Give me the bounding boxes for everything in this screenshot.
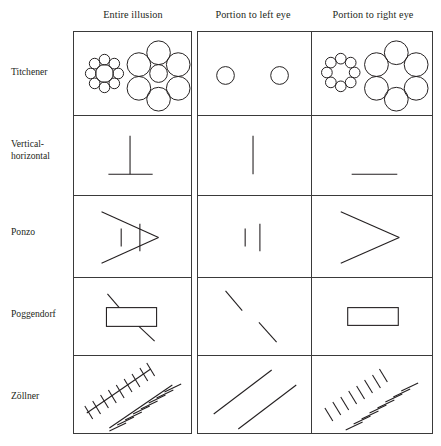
column-header-portion-to-left-eye: Portion to left eye (193, 6, 313, 26)
cell-poggendorf-right-eye (312, 278, 432, 356)
column-header-row: Entire illusion Portion to left eye Port… (73, 6, 433, 26)
cell-ponzo-left-eye (198, 196, 311, 278)
column-header-entire-illusion: Entire illusion (73, 6, 193, 26)
cell-zollner-entire (74, 356, 191, 435)
cell-poggendorf-entire (74, 278, 191, 356)
row-label-column: Titchener Vertical- horizontal Ponzo Pog… (0, 31, 72, 434)
column-header-portion-to-right-eye: Portion to right eye (313, 6, 433, 26)
row-label-ponzo: Ponzo (11, 226, 73, 238)
cell-titchener-entire (74, 32, 191, 116)
row-label-vertical-horizontal-line2: horizontal (11, 150, 50, 161)
cell-vertical-horizontal-left-eye (198, 116, 311, 196)
cell-ponzo-entire (74, 196, 191, 278)
row-label-vertical-horizontal: Vertical- horizontal (11, 138, 73, 161)
illusion-grid (73, 31, 433, 434)
cell-zollner-right-eye (312, 356, 432, 435)
cell-titchener-right-eye (312, 32, 432, 116)
cell-poggendorf-left-eye (198, 278, 311, 356)
grid-column-portion-to-right-eye (312, 31, 433, 434)
cell-vertical-horizontal-entire (74, 116, 191, 196)
row-label-poggendorf: Poggendorf (11, 308, 73, 320)
cell-zollner-left-eye (198, 356, 311, 435)
cell-ponzo-right-eye (312, 196, 432, 278)
grid-column-entire-illusion (73, 31, 192, 434)
grid-column-portion-to-left-eye (197, 31, 312, 434)
cell-vertical-horizontal-right-eye (312, 116, 432, 196)
row-label-zollner: Zöllner (11, 390, 73, 402)
cell-titchener-left-eye (198, 32, 311, 116)
row-label-vertical-horizontal-line1: Vertical- (11, 138, 44, 149)
row-label-titchener: Titchener (11, 66, 73, 78)
